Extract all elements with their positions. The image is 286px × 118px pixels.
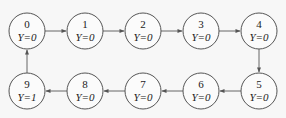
node-value: Y=1	[17, 91, 36, 103]
node-value: Y=0	[133, 91, 153, 103]
node-label: 4	[256, 18, 262, 30]
node-value: Y=0	[191, 31, 211, 43]
state-chain-diagram: 0Y=0 1Y=0 2Y=0 3Y=0 4Y=0 5Y=0 6Y=0 7Y=0 …	[0, 0, 286, 118]
node-label: 1	[82, 18, 88, 30]
node-label: 3	[198, 18, 204, 30]
node-label: 0	[24, 18, 30, 30]
node-0: 0Y=0	[9, 13, 45, 49]
node-1: 1Y=0	[67, 13, 103, 49]
node-value: Y=0	[191, 91, 211, 103]
node-value: Y=0	[133, 31, 153, 43]
node-value: Y=0	[249, 91, 269, 103]
node-value: Y=0	[17, 31, 37, 43]
node-6: 6Y=0	[183, 73, 219, 109]
node-3: 3Y=0	[183, 13, 219, 49]
node-2: 2Y=0	[125, 13, 161, 49]
node-label: 8	[82, 78, 88, 90]
node-label: 5	[256, 78, 262, 90]
node-label: 6	[198, 78, 204, 90]
node-label: 9	[24, 78, 30, 90]
node-value: Y=0	[75, 91, 95, 103]
node-label: 7	[140, 78, 146, 90]
node-5: 5Y=0	[241, 73, 277, 109]
node-8: 8Y=0	[67, 73, 103, 109]
node-7: 7Y=0	[125, 73, 161, 109]
node-label: 2	[140, 18, 146, 30]
node-9: 9Y=1	[9, 73, 45, 109]
node-value: Y=0	[249, 31, 269, 43]
node-value: Y=0	[75, 31, 95, 43]
nodes: 0Y=0 1Y=0 2Y=0 3Y=0 4Y=0 5Y=0 6Y=0 7Y=0 …	[9, 13, 277, 109]
node-4: 4Y=0	[241, 13, 277, 49]
